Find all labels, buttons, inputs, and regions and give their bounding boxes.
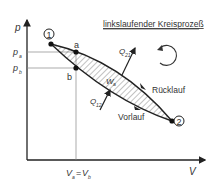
svg-text:p: p [12,47,18,57]
pb-tick-label: p b [12,63,22,75]
svg-text:p: p [12,63,18,73]
q21-label: Q 21 [119,47,131,58]
x-axis-label: V [189,166,197,177]
q12-label: Q 12 [90,97,102,108]
pv-diagram: 1 2 a b p V p a p b V a = V b W a Q 21 Q… [0,0,215,188]
return-path-label: Rücklauf [152,85,186,95]
point-b-label: b [67,72,72,82]
svg-text:a: a [113,81,116,87]
diagram-title: linkslaufender Kreisprozeß [103,19,204,29]
va-vb-tick-label: V a = V b [66,168,91,180]
pa-tick-label: p a [12,47,22,59]
forward-path-label: Vorlauf [118,112,145,122]
point-b [73,65,78,70]
y-axis-label: p [14,22,21,33]
svg-text:b: b [19,69,22,75]
svg-text:b: b [88,174,91,180]
point-a-label: a [74,40,79,50]
svg-text:a: a [19,53,22,59]
point-2-label: 2 [176,117,181,127]
svg-text:12: 12 [96,102,102,108]
svg-text:21: 21 [124,52,131,58]
point-a [73,49,78,54]
point-1 [48,41,53,46]
svg-text:a: a [72,174,75,180]
counterclockwise-arrow-icon [157,43,176,66]
point-1-label: 1 [46,30,51,40]
svg-text:=: = [76,168,81,178]
